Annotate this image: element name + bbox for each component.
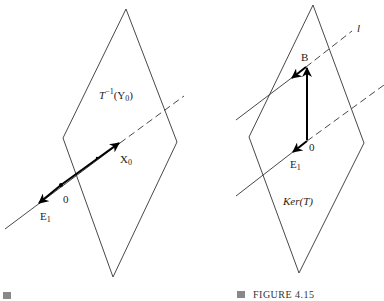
vector-E1 [39, 185, 61, 203]
caption-right: FIGURE 4.15 [237, 290, 315, 300]
vector-X0 [61, 143, 119, 185]
label-preimage: T−1(Y0) [99, 88, 133, 103]
caption-left [3, 291, 19, 301]
label-E1-sub: 1 [47, 215, 51, 224]
label-X0: X0 [120, 154, 132, 167]
vector-E1-right [293, 141, 307, 152]
label-close: ) [129, 89, 133, 101]
origin-dot [59, 183, 63, 187]
label-arg: (Y [114, 89, 126, 101]
caption-square-icon-right [237, 291, 245, 298]
caption-square-icon [3, 292, 11, 299]
label-X0-sub: 0 [128, 158, 132, 167]
label-E1-left: E1 [40, 211, 51, 224]
left-figure [5, 9, 184, 277]
label-line-l: l [357, 23, 360, 34]
label-E1-main: E [40, 210, 47, 222]
label-B: B [301, 52, 308, 63]
label-X0-main: X [120, 153, 128, 165]
vector-from-B [292, 67, 306, 78]
label-origin-left: 0 [63, 194, 69, 205]
label-sup: −1 [105, 87, 114, 96]
label-E1r-main: E [290, 158, 297, 170]
label-E1r-sub: 1 [297, 163, 301, 172]
right-figure [236, 5, 384, 273]
label-E1-right: E1 [290, 159, 301, 172]
label-origin-right: 0 [309, 142, 315, 153]
tick-dot [96, 157, 98, 159]
caption-right-text: FIGURE 4.15 [253, 289, 315, 300]
label-kernel: Ker(T) [283, 196, 313, 207]
